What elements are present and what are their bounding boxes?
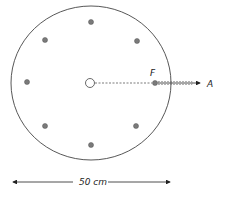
dot-upper-right xyxy=(135,39,140,44)
label-a: A xyxy=(206,79,213,89)
dot-top xyxy=(89,20,94,25)
center-hole xyxy=(86,79,95,88)
diameter-label: 50 cm xyxy=(79,177,107,187)
dot-lower-left xyxy=(43,124,48,129)
disc-diagram: F A 50 cm xyxy=(0,0,226,197)
dot-lower-right xyxy=(134,124,139,129)
dot-f xyxy=(153,81,158,86)
label-f: F xyxy=(150,68,156,78)
dot-left xyxy=(25,80,30,85)
dot-bottom xyxy=(89,143,94,148)
dot-upper-left xyxy=(43,38,48,43)
